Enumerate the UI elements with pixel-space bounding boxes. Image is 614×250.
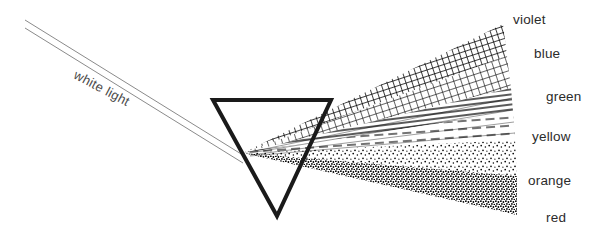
spectrum-fan: [243, 24, 517, 215]
spectrum-label-orange: orange: [528, 174, 571, 188]
spectrum-label-green: green: [546, 90, 582, 104]
prism-dispersion-figure: white light violet blue green yellow ora…: [0, 0, 614, 250]
incident-ray-upper: [25, 20, 246, 157]
spectrum-label-red: red: [546, 211, 566, 225]
incident-white-light-rays: [25, 20, 246, 163]
incident-ray-lower: [25, 28, 243, 163]
spectrum-label-blue: blue: [534, 47, 560, 61]
spectrum-label-violet: violet: [513, 13, 546, 27]
spectrum-label-yellow: yellow: [532, 130, 571, 144]
figure-canvas: [0, 0, 614, 250]
